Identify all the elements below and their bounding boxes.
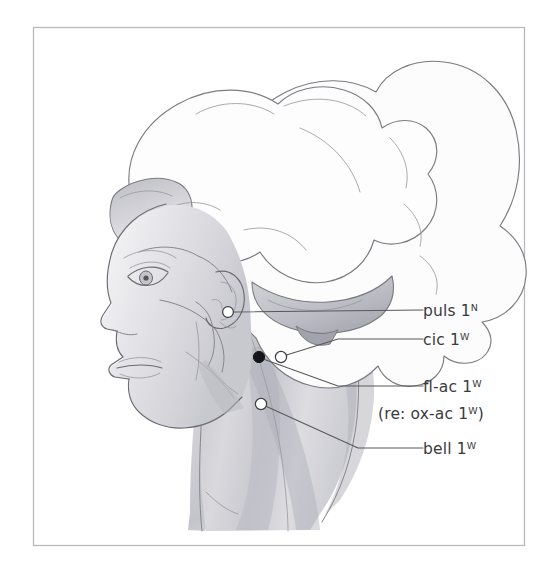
label-puls-remedy: puls — [423, 302, 456, 320]
label-puls-grade: 1 — [461, 302, 471, 320]
label-note-suffix: ) — [478, 405, 484, 423]
head-and-neck-drawing — [101, 61, 526, 531]
label-cic-superscript: W — [460, 331, 470, 342]
label-puls-superscript: N — [471, 302, 478, 313]
label-bell-grade: 1 — [457, 440, 467, 458]
label-bell-superscript: W — [467, 440, 477, 451]
marker-cic[interactable] — [275, 351, 286, 362]
label-fl-ac: fl-ac 1W — [423, 378, 482, 397]
marker-fl-ac[interactable] — [253, 351, 264, 362]
label-fl-ac-note: (re: ox-ac 1W) — [378, 405, 484, 424]
label-bell-remedy: bell — [423, 440, 452, 458]
label-fl-ac-superscript: W — [472, 378, 482, 389]
anatomy-figure-container: puls 1N cic 1W fl-ac 1W (re: ox-ac 1W) b… — [0, 0, 545, 574]
marker-bell[interactable] — [255, 398, 266, 409]
marker-puls[interactable] — [223, 307, 234, 318]
anatomy-illustration-svg: puls 1N cic 1W fl-ac 1W (re: ox-ac 1W) b… — [0, 0, 545, 574]
label-cic-grade: 1 — [450, 331, 460, 349]
label-puls: puls 1N — [423, 302, 478, 321]
label-fl-ac-remedy: fl-ac — [423, 378, 457, 396]
label-note-prefix: (re: ox-ac — [378, 405, 458, 423]
label-note-grade: 1 — [458, 405, 468, 423]
eye-pupil — [143, 275, 148, 280]
label-bell: bell 1W — [423, 440, 477, 459]
label-cic-remedy: cic — [423, 331, 445, 349]
label-note-superscript: W — [468, 405, 478, 416]
label-fl-ac-grade: 1 — [462, 378, 472, 396]
